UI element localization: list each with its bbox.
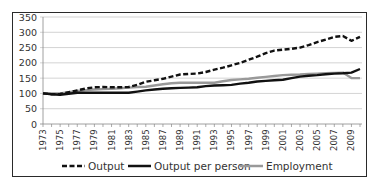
- series-lines: [43, 36, 360, 95]
- x-tick-label: 2005: [312, 129, 322, 151]
- y-tick-label: 0: [31, 119, 37, 130]
- legend: Output Output per person Employment: [62, 160, 333, 172]
- x-tick-label: 2007: [329, 129, 339, 151]
- x-tick-label: 1995: [226, 129, 236, 151]
- x-tick-label: 1981: [107, 129, 117, 151]
- y-tick-label: 350: [19, 12, 37, 23]
- x-tick-label: 1999: [261, 129, 271, 151]
- x-tick-label: 1983: [124, 129, 134, 151]
- y-tick-label: 50: [25, 103, 37, 114]
- line-chart: 050100150200250300350 197319751977197919…: [0, 0, 380, 190]
- legend-output-label: Output: [88, 160, 124, 172]
- x-tick-label: 2001: [278, 129, 288, 151]
- y-tick-label: 200: [19, 57, 37, 68]
- x-tick-label: 1977: [72, 129, 82, 151]
- x-tick-label: 1985: [141, 129, 151, 151]
- x-tick-label: 1987: [158, 129, 168, 151]
- x-tick-label: 2003: [295, 129, 305, 151]
- legend-employment-label: Employment: [266, 160, 333, 172]
- y-tick-label: 300: [19, 27, 37, 38]
- x-tick-label: 1979: [89, 129, 99, 151]
- x-tick-label: 1997: [244, 129, 254, 151]
- x-tick-label: 1989: [175, 129, 185, 151]
- y-tick-label: 250: [19, 42, 37, 53]
- x-tick-label: 1975: [55, 129, 65, 151]
- legend-output-per-person-label: Output per person: [154, 160, 251, 172]
- y-tick-label: 150: [19, 73, 37, 84]
- x-axis: 1973197519771979198119831985198719891991…: [38, 124, 360, 151]
- x-tick-label: 1991: [192, 129, 202, 151]
- x-tick-label: 1973: [38, 129, 48, 151]
- x-tick-label: 1993: [209, 129, 219, 151]
- y-tick-label: 100: [19, 88, 37, 99]
- gridlines: [40, 17, 362, 124]
- y-axis: 050100150200250300350: [19, 12, 43, 130]
- x-tick-label: 2009: [346, 129, 356, 151]
